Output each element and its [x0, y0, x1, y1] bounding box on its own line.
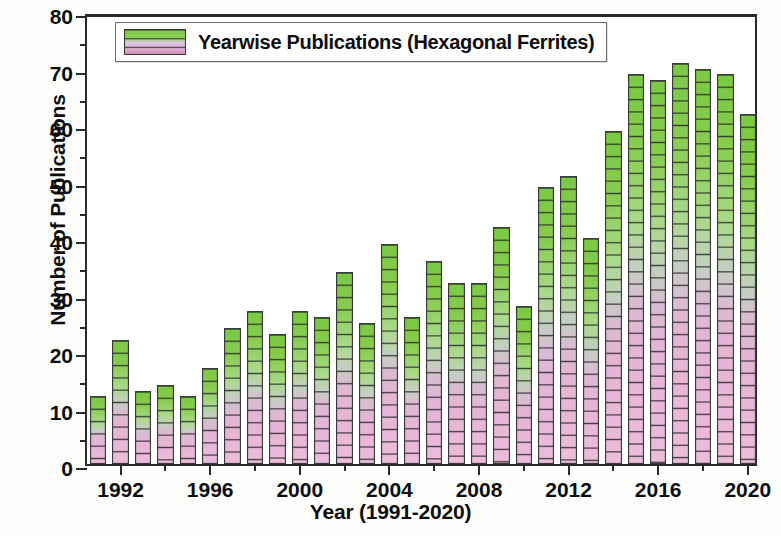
y-axis-major-tick: [76, 412, 87, 414]
y-axis-major-tick: [76, 299, 87, 301]
y-axis-minor-tick: [80, 440, 87, 442]
bar: [560, 176, 577, 464]
y-axis-major-tick: [76, 16, 87, 18]
y-axis-tick-label: 80: [50, 5, 73, 29]
x-axis-major-tick: [657, 464, 659, 475]
y-axis-minor-tick: [80, 44, 87, 46]
x-axis-major-tick: [120, 464, 122, 475]
y-axis-minor-tick: [80, 327, 87, 329]
x-axis-tick-label: 2008: [456, 478, 503, 502]
bar: [404, 317, 421, 464]
x-axis-tick-label: 1992: [97, 478, 144, 502]
x-axis-major-tick: [478, 464, 480, 475]
bar: [135, 391, 152, 464]
chart-canvas: Number of Publications Year (1991-2020) …: [0, 0, 781, 536]
bar: [314, 317, 331, 464]
legend-label: Yearwise Publications (Hexagonal Ferrite…: [198, 31, 594, 54]
bar: [538, 187, 555, 464]
bar: [336, 272, 353, 464]
y-axis-tick-label: 0: [61, 457, 73, 481]
bar: [90, 396, 107, 464]
x-axis-minor-tick: [344, 464, 346, 471]
bar: [381, 244, 398, 464]
bar: [448, 283, 465, 464]
y-axis-minor-tick: [80, 270, 87, 272]
bar: [628, 74, 645, 464]
x-axis-major-tick: [209, 464, 211, 475]
y-axis-major-tick: [76, 186, 87, 188]
x-axis-major-tick: [568, 464, 570, 475]
y-axis-tick-label: 70: [50, 62, 73, 86]
legend: Yearwise Publications (Hexagonal Ferrite…: [115, 22, 607, 62]
y-axis-tick-label: 60: [50, 118, 73, 142]
x-axis-minor-tick: [523, 464, 525, 471]
y-axis-minor-tick: [80, 383, 87, 385]
x-axis-major-tick: [747, 464, 749, 475]
bar: [717, 74, 734, 464]
bar: [650, 80, 667, 464]
x-axis-minor-tick: [164, 464, 166, 471]
legend-swatch-icon: [124, 29, 186, 55]
y-axis-tick-label: 10: [50, 401, 73, 425]
y-axis-tick-label: 20: [50, 344, 73, 368]
x-axis-major-tick: [388, 464, 390, 475]
y-axis-tick-label: 40: [50, 231, 73, 255]
x-axis-tick-label: 2016: [635, 478, 682, 502]
y-axis-minor-tick: [80, 157, 87, 159]
bar: [180, 396, 197, 464]
x-axis-major-tick: [299, 464, 301, 475]
x-axis-tick-label: 1996: [187, 478, 234, 502]
bar: [493, 227, 510, 464]
y-axis-tick-label: 50: [50, 175, 73, 199]
y-axis-minor-tick: [80, 101, 87, 103]
x-axis-tick-label: 2000: [276, 478, 323, 502]
bar: [359, 323, 376, 464]
x-axis-tick-label: 2012: [545, 478, 592, 502]
y-axis-minor-tick: [80, 214, 87, 216]
bar: [224, 328, 241, 464]
y-axis-major-tick: [76, 468, 87, 470]
x-axis-minor-tick: [433, 464, 435, 471]
bar: [112, 340, 129, 464]
bar: [516, 306, 533, 464]
bar: [471, 283, 488, 464]
y-axis-major-tick: [76, 242, 87, 244]
bar: [269, 334, 286, 464]
x-axis-tick-label: 2004: [366, 478, 413, 502]
y-axis-tick-label: 30: [50, 288, 73, 312]
bar: [247, 311, 264, 464]
bar: [672, 63, 689, 464]
x-axis-minor-tick: [254, 464, 256, 471]
bar: [292, 311, 309, 464]
bar: [202, 368, 219, 464]
x-axis-title: Year (1991-2020): [0, 500, 781, 524]
plot-area: 01020304050607080 1992199620002004200820…: [85, 14, 757, 466]
y-axis-major-tick: [76, 355, 87, 357]
bar: [740, 114, 757, 464]
bar: [695, 69, 712, 465]
bar: [583, 238, 600, 464]
bar: [157, 385, 174, 464]
x-axis-tick-label: 2020: [724, 478, 771, 502]
x-axis-minor-tick: [702, 464, 704, 471]
bar: [426, 261, 443, 464]
bar: [605, 131, 622, 464]
x-axis-minor-tick: [612, 464, 614, 471]
y-axis-major-tick: [76, 73, 87, 75]
y-axis-major-tick: [76, 129, 87, 131]
